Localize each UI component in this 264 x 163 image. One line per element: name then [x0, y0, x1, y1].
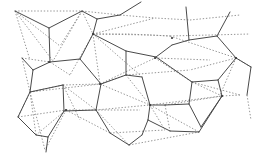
voronoi-edge	[30, 85, 63, 92]
delaunay-edge	[170, 34, 250, 36]
delaunay-edge	[129, 132, 199, 145]
site-point	[65, 109, 67, 111]
delaunay-edge	[190, 15, 240, 20]
voronoi-edge	[80, 59, 101, 84]
delaunay-edge	[15, 11, 53, 61]
site-point	[154, 57, 156, 59]
voronoi-edge	[49, 28, 50, 62]
site-point	[149, 104, 151, 106]
delaunay-edge	[63, 85, 80, 120]
voronoi-delaunay-diagram	[0, 0, 264, 163]
voronoi-edge	[126, 75, 142, 77]
voronoi-edge	[236, 58, 251, 67]
site-points-layer	[48, 33, 237, 111]
delaunay-edge	[96, 105, 150, 110]
voronoi-edge	[192, 80, 218, 82]
delaunay-edge	[155, 18, 190, 20]
voronoi-edge	[30, 70, 33, 92]
voronoi-edge	[247, 67, 251, 95]
voronoi-edge	[33, 62, 50, 70]
voronoi-edge	[156, 57, 192, 82]
voronoi-edge	[142, 120, 148, 135]
delaunay-edge	[30, 92, 36, 135]
voronoi-edge	[217, 36, 236, 58]
delaunay-edge	[30, 92, 45, 150]
voronoi-edge	[201, 96, 222, 127]
voronoi-edge	[63, 85, 64, 111]
voronoi-edge	[126, 51, 156, 57]
delaunay-edge	[120, 15, 155, 18]
voronoi-edge	[18, 117, 36, 135]
voronoi-edges-layer	[15, 2, 251, 152]
delaunay-edge	[100, 84, 150, 105]
delaunay-edge	[96, 110, 129, 145]
voronoi-edge	[22, 58, 33, 70]
delaunay-edge	[165, 105, 170, 131]
delaunay-edge	[222, 95, 240, 96]
voronoi-edge	[97, 15, 120, 19]
voronoi-edge	[50, 59, 80, 62]
delaunay-edge	[150, 35, 170, 36]
voronoi-edge	[148, 120, 170, 131]
delaunay-edge	[155, 58, 210, 60]
site-point	[99, 83, 101, 85]
delaunay-edge	[30, 84, 100, 92]
delaunay-edge	[15, 11, 60, 46]
delaunay-edge	[150, 105, 165, 130]
delaunay-edge	[110, 130, 165, 133]
delaunay-edge	[50, 62, 70, 75]
voronoi-edge	[148, 105, 150, 120]
delaunay-edge	[15, 11, 30, 60]
delaunay-edge	[63, 85, 96, 110]
voronoi-edge	[120, 2, 141, 15]
delaunay-edge	[100, 58, 155, 84]
delaunay-edge	[22, 58, 50, 62]
delaunay-edge	[93, 18, 155, 34]
voronoi-edge	[93, 19, 97, 34]
site-point	[92, 33, 94, 35]
voronoi-edge	[217, 12, 230, 36]
delaunay-edge	[220, 58, 236, 95]
voronoi-edge	[80, 34, 93, 59]
voronoi-edge	[101, 75, 126, 84]
voronoi-edge	[96, 84, 101, 110]
voronoi-edge	[189, 104, 201, 127]
voronoi-edge	[218, 80, 222, 96]
voronoi-edge	[218, 58, 236, 80]
site-point	[171, 37, 173, 39]
voronoi-edge	[48, 111, 64, 137]
voronoi-edge	[36, 135, 48, 137]
voronoi-edge	[18, 92, 30, 117]
site-point	[48, 61, 50, 63]
delaunay-edge	[126, 75, 150, 105]
delaunay-edge	[45, 110, 66, 150]
voronoi-edge	[15, 11, 49, 28]
site-point	[235, 57, 237, 59]
voronoi-edge	[186, 7, 189, 40]
voronoi-edge	[189, 36, 217, 40]
voronoi-edge	[142, 77, 150, 105]
voronoi-edge	[172, 40, 189, 45]
delaunay-edge	[165, 96, 222, 105]
voronoi-edge	[170, 131, 199, 132]
delaunay-edge	[247, 95, 251, 120]
voronoi-edge	[110, 133, 129, 145]
voronoi-edge	[64, 110, 96, 111]
voronoi-edge	[156, 45, 172, 57]
voronoi-edge	[93, 34, 126, 51]
site-point	[221, 95, 223, 97]
delaunay-edge	[93, 34, 150, 35]
